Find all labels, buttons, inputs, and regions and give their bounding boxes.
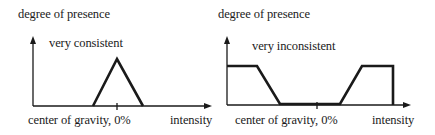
inconsistent-chart	[0, 0, 435, 135]
x-axis-arrow-icon	[403, 102, 411, 108]
trapezoid-curve	[227, 66, 393, 105]
y-axis-arrow-icon	[224, 36, 230, 44]
